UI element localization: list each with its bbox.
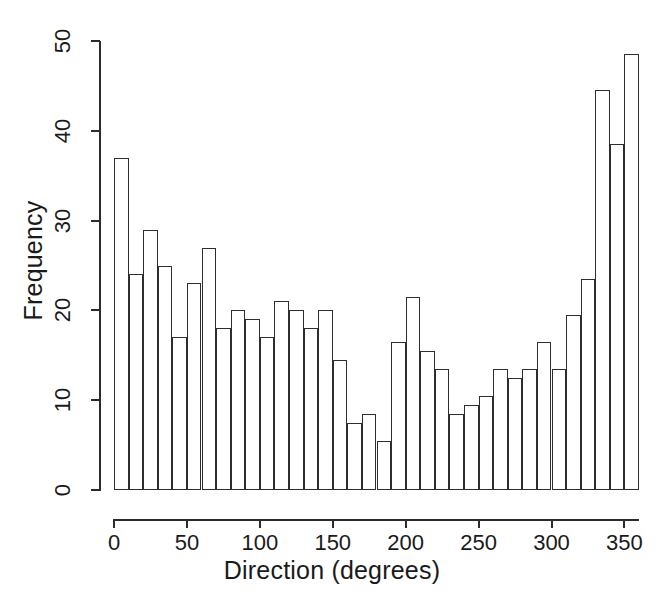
histogram-bar [391, 342, 406, 490]
x-axis-tick-label: 350 [594, 531, 654, 555]
x-axis-tick-label: 50 [157, 531, 217, 555]
histogram-figure: Frequency 01020304050 050100150200250300… [0, 0, 664, 608]
histogram-bar [231, 310, 246, 490]
histogram-bar [522, 369, 537, 490]
x-axis-tick-label: 0 [84, 531, 144, 555]
histogram-bar [245, 319, 260, 490]
histogram-bar [537, 342, 552, 490]
histogram-bar [114, 158, 129, 490]
histogram-bar [289, 310, 304, 490]
x-axis-tick [623, 519, 625, 528]
x-axis-line [114, 519, 639, 521]
x-axis-tick [332, 519, 334, 528]
histogram-bar [552, 369, 567, 490]
x-axis-tick [405, 519, 407, 528]
histogram-bar [449, 414, 464, 490]
histogram-bar [202, 248, 217, 490]
histogram-bar [479, 396, 494, 490]
histogram-bar [508, 378, 523, 490]
histogram-bar [318, 310, 333, 490]
x-axis-tick [186, 519, 188, 528]
histogram-bar [260, 337, 275, 490]
histogram-bar [566, 315, 581, 490]
histogram-bar [610, 144, 625, 490]
histogram-bar [172, 337, 187, 490]
histogram-bar [129, 274, 144, 490]
x-axis-tick [478, 519, 480, 528]
x-axis-tick-label: 150 [303, 531, 363, 555]
histogram-bar [362, 414, 377, 490]
histogram-bar [581, 279, 596, 490]
histogram-bar [143, 230, 158, 490]
histogram-bar [595, 90, 610, 490]
x-axis-tick-label: 100 [230, 531, 290, 555]
histogram-bar [187, 283, 202, 490]
x-axis-title: Direction (degrees) [0, 556, 664, 585]
x-axis-tick [551, 519, 553, 528]
plot-area [0, 0, 664, 608]
histogram-bar [406, 297, 421, 490]
histogram-bar [464, 405, 479, 490]
histogram-bar [420, 351, 435, 490]
histogram-bar [624, 54, 639, 490]
histogram-bar [347, 423, 362, 490]
x-axis-tick-label: 200 [376, 531, 436, 555]
histogram-bar [333, 360, 348, 490]
figure-bottom-margin [0, 600, 664, 608]
histogram-bar [493, 369, 508, 490]
x-axis-tick [113, 519, 115, 528]
x-axis-tick [259, 519, 261, 528]
histogram-bar [158, 266, 173, 491]
x-axis-tick-label: 300 [522, 531, 582, 555]
histogram-bar [435, 369, 450, 490]
histogram-bar [377, 441, 392, 490]
histogram-bar [216, 328, 231, 490]
histogram-bar [304, 328, 319, 490]
x-axis-tick-label: 250 [449, 531, 509, 555]
histogram-bar [274, 301, 289, 490]
